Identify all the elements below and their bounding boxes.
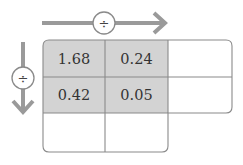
cell-r1-c2: 0.24 [105, 40, 168, 77]
cell-r2-c3-empty[interactable] [168, 77, 232, 113]
cell-r1-c3-empty[interactable] [168, 40, 232, 77]
division-operator-top: ÷ [93, 12, 115, 34]
cell-r2-c1: 0.42 [43, 77, 105, 113]
cell-r3-c1-empty[interactable] [43, 113, 105, 152]
cell-r2-c2: 0.05 [105, 77, 168, 113]
division-operator-left: ÷ [12, 67, 34, 89]
cell-r3-c2-empty[interactable] [105, 113, 168, 152]
cell-r1-c1: 1.68 [43, 40, 105, 77]
